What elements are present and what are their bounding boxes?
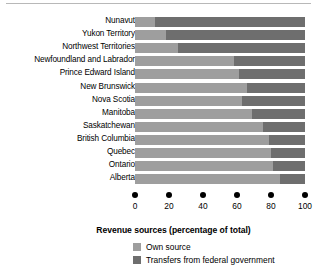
bar-segment-transfers — [269, 135, 305, 145]
bar-track — [135, 96, 305, 106]
bar-segment-transfers — [247, 83, 305, 93]
bar-row-label: Northwest Territories — [1, 42, 135, 52]
bar-row: Yukon Territory — [0, 30, 321, 40]
bar-segment-own-source — [135, 83, 247, 93]
bar-row: Northwest Territories — [0, 43, 321, 53]
bar-row-label: British Columbia — [1, 134, 135, 144]
bar-segment-own-source — [135, 56, 234, 66]
bar-row-label: Nunavut — [1, 16, 135, 26]
bar-row: Nova Scotia — [0, 96, 321, 106]
chart-legend: Own sourceTransfers from federal governm… — [133, 240, 321, 266]
legend-swatch-icon — [133, 256, 141, 264]
bar-segment-transfers — [166, 30, 305, 40]
x-axis-tick-dot — [268, 192, 274, 198]
bar-track — [135, 69, 305, 79]
legend-item: Own source — [133, 240, 321, 253]
bar-row: British Columbia — [0, 135, 321, 145]
bar-row: Nunavut — [0, 17, 321, 27]
bar-row-label: Quebec — [1, 147, 135, 157]
bar-segment-transfers — [271, 148, 305, 158]
bar-segment-transfers — [242, 96, 305, 106]
bar-track — [135, 43, 305, 53]
bar-segment-transfers — [263, 122, 306, 132]
bar-segment-own-source — [135, 17, 155, 27]
x-axis-tick-dot — [132, 192, 138, 198]
top-divider-rule — [6, 3, 311, 4]
bar-segment-own-source — [135, 30, 166, 40]
bar-row: Saskatchewan — [0, 122, 321, 132]
legend-swatch-icon — [133, 243, 141, 251]
x-axis-title: Revenue sources (percentage of total) — [0, 225, 321, 235]
legend-item: Transfers from federal government — [133, 253, 321, 266]
bar-segment-transfers — [178, 43, 306, 53]
bar-segment-own-source — [135, 69, 239, 79]
bar-segment-transfers — [280, 174, 306, 184]
bar-row: Prince Edward Island — [0, 69, 321, 79]
bar-track — [135, 135, 305, 145]
x-axis-tick-label: 100 — [285, 201, 321, 211]
bar-row-label: Manitoba — [1, 108, 135, 118]
bar-row-label: Newfoundland and Labrador — [1, 55, 135, 65]
bar-segment-transfers — [234, 56, 305, 66]
bar-row-label: Yukon Territory — [1, 29, 135, 39]
bar-segment-transfers — [273, 161, 305, 171]
bar-row-label: Nova Scotia — [1, 95, 135, 105]
x-axis-tick-dot — [234, 192, 240, 198]
x-axis-tick-dot — [302, 192, 308, 198]
bar-row-label: Prince Edward Island — [1, 68, 135, 78]
plot-area: NunavutYukon TerritoryNorthwest Territor… — [0, 17, 321, 189]
bar-track — [135, 174, 305, 184]
bar-row: Quebec — [0, 148, 321, 158]
bar-segment-own-source — [135, 96, 242, 106]
bar-row-label: Ontario — [1, 160, 135, 170]
bar-track — [135, 30, 305, 40]
bar-row-label: New Brunswick — [1, 82, 135, 92]
bar-segment-transfers — [155, 17, 305, 27]
bar-segment-own-source — [135, 148, 271, 158]
bar-track — [135, 56, 305, 66]
bar-segment-own-source — [135, 109, 252, 119]
bar-row: Alberta — [0, 174, 321, 184]
bar-track — [135, 83, 305, 93]
x-axis: 020406080100 — [0, 192, 321, 218]
bar-row: New Brunswick — [0, 83, 321, 93]
bar-segment-own-source — [135, 122, 263, 132]
bar-segment-own-source — [135, 135, 269, 145]
bar-track — [135, 161, 305, 171]
legend-label: Own source — [146, 242, 191, 252]
revenue-sources-chart: NunavutYukon TerritoryNorthwest Territor… — [0, 0, 321, 273]
bar-row: Manitoba — [0, 109, 321, 119]
bar-segment-own-source — [135, 174, 280, 184]
bar-row: Ontario — [0, 161, 321, 171]
bar-segment-transfers — [239, 69, 305, 79]
x-axis-tick-dot — [166, 192, 172, 198]
x-axis-tick-dot — [200, 192, 206, 198]
bar-track — [135, 122, 305, 132]
bar-row-label: Alberta — [1, 173, 135, 183]
legend-label: Transfers from federal government — [146, 255, 275, 265]
bar-track — [135, 109, 305, 119]
bar-row: Newfoundland and Labrador — [0, 56, 321, 66]
bar-track — [135, 148, 305, 158]
bar-segment-own-source — [135, 161, 273, 171]
bar-segment-transfers — [252, 109, 305, 119]
bar-segment-own-source — [135, 43, 178, 53]
bar-row-label: Saskatchewan — [1, 121, 135, 131]
bar-track — [135, 17, 305, 27]
